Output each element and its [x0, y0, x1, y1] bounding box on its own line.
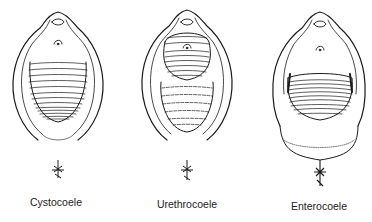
label-cystocoele: Cystocoele	[30, 196, 82, 208]
perineal-fold	[280, 126, 358, 160]
labia-outline	[13, 12, 103, 140]
cystocoele-illustration	[0, 0, 125, 222]
anus-mark	[52, 160, 64, 178]
panel-cystocoele: Cystocoele	[0, 0, 125, 222]
anus-mark	[181, 160, 193, 180]
label-urethrocoele: Urethrocoele	[157, 198, 217, 210]
panel-enterocoele: Enterocoele	[250, 0, 372, 222]
enterocoele-illustration	[250, 0, 372, 222]
label-enterocoele: Enterocoele	[291, 200, 347, 212]
panel-urethrocoele: Urethrocoele	[125, 0, 250, 222]
anus-mark	[314, 160, 326, 186]
labia-outline	[273, 12, 365, 126]
urethrocoele-illustration	[125, 0, 250, 222]
